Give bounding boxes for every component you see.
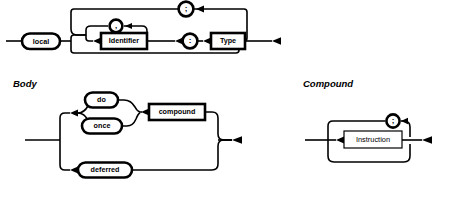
punct-colon-label: : — [189, 36, 192, 45]
diagram-body: Body do once compound — [13, 78, 242, 178]
section-label-body: Body — [13, 78, 37, 89]
nonterminal-type-label: Type — [220, 36, 236, 45]
compound-arrow-exit — [422, 136, 432, 143]
body-envelope-right-up — [118, 100, 142, 112]
compound-arrow-into-instruction — [336, 137, 344, 144]
body-rail-deferred-out — [132, 140, 232, 170]
terminal-deferred-label: deferred — [91, 165, 120, 174]
compound-arrow-into-semicolon — [401, 118, 408, 124]
arrow-into-comma — [125, 23, 132, 29]
arrow-exit-local-declaration — [272, 37, 281, 44]
section-label-compound: Compound — [303, 78, 353, 89]
railroad-diagrams-svg: local ; , Identifier — [0, 0, 451, 200]
rail-semicolon-loop-left — [71, 9, 178, 35]
punct-semicolon-top-label: ; — [185, 4, 188, 13]
body-envelope-right-down — [122, 113, 140, 126]
rail-to-identifier — [86, 35, 93, 41]
body-arrow-into-choice — [70, 110, 78, 117]
nonterminal-identifier-label: Identifier — [109, 36, 140, 45]
body-rail-branch-lower — [60, 140, 70, 170]
terminal-local-label: local — [33, 37, 49, 46]
punct-comma-label: , — [115, 21, 117, 30]
nonterminal-instruction-label: Instruction — [356, 135, 390, 144]
arrow-into-semicolon-top — [196, 6, 204, 13]
terminal-do-label: do — [97, 95, 106, 104]
body-rail-compound-out — [205, 112, 232, 140]
rail-branch-up-to-identifier — [71, 35, 86, 41]
body-rail-branch-upper — [60, 113, 70, 140]
nonterminal-compound-label: compound — [159, 107, 196, 116]
punct-semicolon-compound-label: ; — [392, 116, 395, 125]
diagram-compound: Compound ; Instruction — [303, 78, 432, 162]
syntax-diagram-canvas: local ; , Identifier — [0, 0, 451, 200]
body-arrow-exit — [232, 136, 242, 143]
diagram-local-declaration: local ; , Identifier — [6, 2, 281, 53]
terminal-once-label: once — [94, 121, 111, 130]
